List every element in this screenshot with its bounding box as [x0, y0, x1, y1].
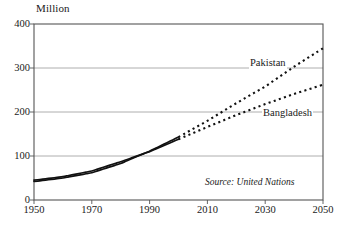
series-label-bangladesh: Bangladesh: [262, 107, 313, 119]
source-note: Source: United Nations: [204, 177, 295, 188]
series-label-pakistan: Pakistan: [249, 57, 287, 69]
population-projection-chart: Million 400 300 200 100 0 1950 1970 1990…: [0, 0, 347, 237]
